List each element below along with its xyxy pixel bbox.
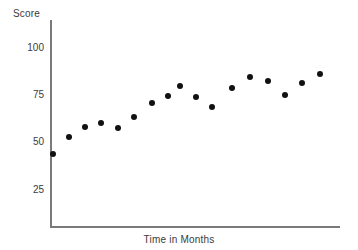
data-point xyxy=(50,151,56,157)
scatter-chart: Score 100755025 Time in Months xyxy=(0,0,358,250)
data-point xyxy=(131,114,137,120)
data-point xyxy=(177,83,183,89)
data-point xyxy=(282,92,288,98)
data-point xyxy=(265,78,271,84)
data-point xyxy=(317,71,323,77)
data-point xyxy=(247,74,253,80)
data-point xyxy=(149,100,155,106)
data-point xyxy=(299,80,305,86)
data-point xyxy=(209,104,215,110)
data-point xyxy=(165,93,171,99)
data-point-group xyxy=(0,0,358,250)
data-point xyxy=(229,85,235,91)
data-point xyxy=(98,120,104,126)
x-axis-label: Time in Months xyxy=(0,234,358,245)
data-point xyxy=(66,134,72,140)
data-point xyxy=(193,94,199,100)
data-point xyxy=(82,124,88,130)
data-point xyxy=(115,125,121,131)
